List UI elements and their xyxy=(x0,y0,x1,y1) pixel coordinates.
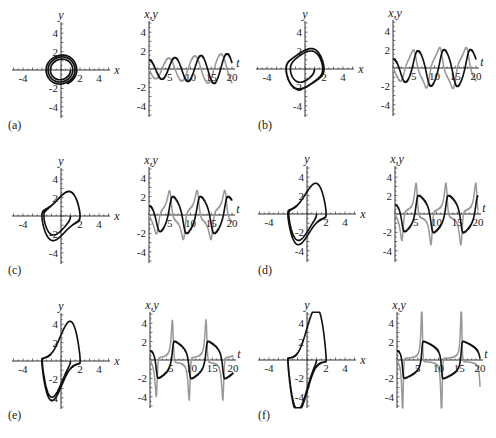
y-tick-label: 4 xyxy=(297,26,303,38)
time-series-c xyxy=(149,167,235,263)
xy-axis-label: x,y xyxy=(391,298,406,312)
y-tick-label: 4 xyxy=(385,25,391,37)
t-axis-label: t xyxy=(236,202,240,216)
y-axis-label: y xyxy=(57,8,64,22)
y-tick-label: -2 xyxy=(49,82,58,94)
panel-label-d: (d) xyxy=(258,263,272,278)
x-tick-label: -4 xyxy=(264,216,274,228)
y-tick-label: 2 xyxy=(141,45,147,57)
x-tick-label: 2 xyxy=(321,71,327,83)
y-tick-label: -4 xyxy=(137,100,147,112)
t-tick-label: 15 xyxy=(454,362,466,374)
x-tick-label: -4 xyxy=(18,72,28,84)
y-tick-label: -4 xyxy=(295,391,305,403)
time-series-a xyxy=(149,21,235,117)
t-tick-label: 10 xyxy=(185,71,197,83)
y-tick-label: 4 xyxy=(142,317,148,329)
panel-label-f: (f) xyxy=(258,408,270,423)
t-tick-label: 20 xyxy=(227,71,239,83)
t-tick-label: 15 xyxy=(206,71,218,83)
t-tick-label: 20 xyxy=(475,362,487,374)
y-axis-label: y xyxy=(303,298,310,312)
panel-label-a: (a) xyxy=(8,118,21,133)
t-tick-label: 5 xyxy=(167,217,173,229)
y-tick-label: 2 xyxy=(53,46,59,58)
y-tick-label: 4 xyxy=(53,27,59,39)
t-tick-label: 10 xyxy=(186,362,198,374)
x-tick-label: 4 xyxy=(96,218,102,230)
xy-axis-label: x,y xyxy=(144,298,159,312)
y-axis-label: y xyxy=(57,299,64,313)
x-tick-label: 4 xyxy=(96,72,102,84)
t-axis-label: t xyxy=(484,347,488,361)
t-tick-label: 15 xyxy=(452,216,464,228)
y-tick-label: 2 xyxy=(297,45,303,57)
phase-portrait-f xyxy=(258,312,356,408)
y-tick-label: 4 xyxy=(141,172,147,184)
y-tick-label: 4 xyxy=(141,26,147,38)
x-tick-label: 2 xyxy=(77,363,83,375)
y-tick-label: -2 xyxy=(49,373,58,385)
t-tick-label: 20 xyxy=(227,217,239,229)
x-tick-label: -4 xyxy=(18,363,28,375)
x-tick-label: 2 xyxy=(77,72,83,84)
t-tick-label: 15 xyxy=(450,70,462,82)
x-tick-label: 4 xyxy=(96,363,102,375)
y-tick-label: -2 xyxy=(293,81,302,93)
panel-label-e: (e) xyxy=(8,408,21,423)
x-tick-label: 2 xyxy=(323,216,329,228)
y-tick-label: -2 xyxy=(381,80,390,92)
xy-axis-label: x,y xyxy=(389,152,404,166)
phase-portrait-d xyxy=(258,166,356,262)
t-tick-label: 5 xyxy=(413,216,419,228)
y-tick-label: -4 xyxy=(49,101,59,113)
y-tick-label: -4 xyxy=(293,100,303,112)
panel-label-b: (b) xyxy=(258,118,272,133)
y-axis-label: y xyxy=(57,154,64,168)
t-axis-label: t xyxy=(236,56,240,70)
y-tick-label: -4 xyxy=(383,245,393,257)
time-series-e xyxy=(150,312,236,408)
y-tick-label: -4 xyxy=(295,245,305,257)
y-tick-label: -4 xyxy=(381,99,391,111)
y-tick-label: 2 xyxy=(387,190,393,202)
t-tick-label: 20 xyxy=(473,216,485,228)
t-tick-label: 15 xyxy=(207,362,219,374)
xy-axis-label: x,y xyxy=(387,6,402,20)
t-tick-label: 10 xyxy=(431,216,443,228)
y-tick-label: -2 xyxy=(383,226,392,238)
x-tick-label: 2 xyxy=(77,218,83,230)
y-tick-label: -2 xyxy=(385,372,394,384)
y-tick-label: 4 xyxy=(53,173,59,185)
x-axis-label: x xyxy=(113,354,120,368)
x-axis-label: x xyxy=(113,63,120,77)
x-axis-label: x xyxy=(359,353,366,367)
y-tick-label: -4 xyxy=(49,392,59,404)
x-tick-label: 2 xyxy=(323,362,329,374)
xy-axis-label: x,y xyxy=(143,153,158,167)
time-series-b xyxy=(393,20,479,116)
t-axis-label: t xyxy=(480,55,484,69)
t-axis-label: t xyxy=(237,347,241,361)
y-tick-label: 4 xyxy=(387,171,393,183)
time-series-d xyxy=(395,166,481,262)
y-tick-label: 4 xyxy=(53,318,59,330)
t-tick-label: 5 xyxy=(167,71,173,83)
y-tick-label: 2 xyxy=(142,336,148,348)
x-tick-label: 4 xyxy=(342,362,348,374)
t-tick-label: 10 xyxy=(429,70,441,82)
y-tick-label: 2 xyxy=(385,44,391,56)
y-tick-label: -2 xyxy=(138,372,147,384)
y-tick-label: 4 xyxy=(299,171,305,183)
x-axis-label: x xyxy=(357,62,364,76)
y-tick-label: -2 xyxy=(137,81,146,93)
x-tick-label: -4 xyxy=(18,218,28,230)
phase-portrait-b xyxy=(256,21,354,117)
t-tick-label: 5 xyxy=(415,362,421,374)
y-tick-label: 2 xyxy=(53,192,59,204)
figure-canvas: -42442-2-4xy510152042-2-4tx,y-42442-2-4x… xyxy=(0,0,496,438)
y-tick-label: -4 xyxy=(385,391,395,403)
phase-portrait-e xyxy=(12,313,110,409)
y-tick-label: -4 xyxy=(138,391,148,403)
y-tick-label: -4 xyxy=(137,246,147,258)
